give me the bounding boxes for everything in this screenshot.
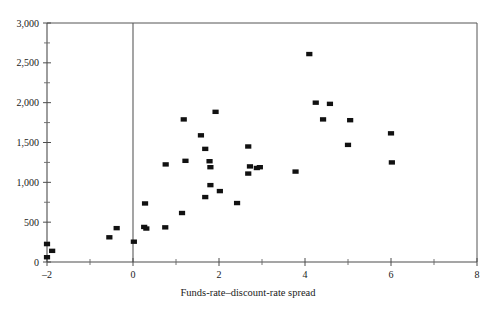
x-tick-label: 2 [217,269,222,280]
data-point-marker [162,225,168,229]
data-point-marker [207,165,213,169]
data-point-marker [247,164,253,168]
data-point-marker [306,52,312,56]
data-point-marker [142,201,148,205]
data-point-marker [245,171,251,175]
plot-frame [47,23,477,262]
data-point-marker [217,189,223,193]
y-tick-label: 2,000 [17,97,40,108]
data-point-marker [198,133,204,137]
data-point-marker [234,201,240,205]
data-point-marker [327,102,333,106]
x-tick-label: 8 [475,269,480,280]
y-tick-label: 1,500 [17,137,40,148]
data-point-marker [44,255,50,259]
y-tick-label: 2,500 [17,57,40,68]
plot-canvas: –202468 05001,0001,5002,0002,5003,000 Fu… [0,0,497,313]
y-axis: 05001,0001,5002,0002,5003,000 [17,18,52,268]
data-point-marker [182,159,188,163]
data-point-marker [131,239,137,243]
data-point-marker [389,160,395,164]
data-point-marker [345,143,351,147]
x-axis-title: Funds-rate–discount-rate spread [181,287,317,298]
data-point-marker [44,242,50,246]
data-point-series [44,52,395,260]
data-point-marker [206,159,212,163]
data-point-marker [202,195,208,199]
data-point-marker [181,117,187,121]
data-point-marker [207,183,213,187]
data-point-marker [313,100,319,104]
data-point-marker [257,165,263,169]
data-point-marker [106,235,112,239]
y-tick-label: 3,000 [17,18,40,29]
y-tick-label: 1,000 [17,177,40,188]
data-point-marker [49,249,55,253]
data-point-marker [212,110,218,114]
data-point-marker [320,117,326,121]
x-tick-label: –2 [41,269,52,280]
scatter-plot-figure: –202468 05001,0001,5002,0002,5003,000 Fu… [0,0,497,313]
data-point-marker [163,162,169,166]
x-tick-label: 6 [389,269,394,280]
data-point-marker [114,226,120,230]
x-tick-label: 0 [131,269,136,280]
data-point-marker [347,118,353,122]
data-point-marker [388,131,394,135]
data-point-marker [292,169,298,173]
data-point-marker [202,147,208,151]
data-point-marker [245,144,251,148]
data-point-marker [179,211,185,215]
x-axis: –202468 [41,258,480,280]
data-point-marker [143,226,149,230]
y-tick-label: 500 [24,217,39,228]
x-tick-label: 4 [303,269,308,280]
y-tick-label: 0 [34,257,39,268]
